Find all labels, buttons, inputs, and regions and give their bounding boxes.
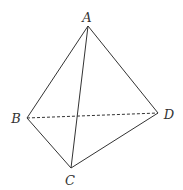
vertex-label-d: D: [164, 108, 174, 121]
edge-bd-hidden: [27, 113, 158, 118]
edge-bc: [27, 118, 71, 168]
vertex-label-a: A: [82, 11, 91, 24]
vertex-label-c: C: [65, 174, 75, 187]
vertex-label-b: B: [11, 112, 21, 125]
edge-cd: [71, 113, 158, 168]
tetrahedron-diagram: A B C D: [0, 0, 183, 190]
edge-ad: [88, 26, 158, 113]
diagram-svg: [0, 0, 183, 190]
